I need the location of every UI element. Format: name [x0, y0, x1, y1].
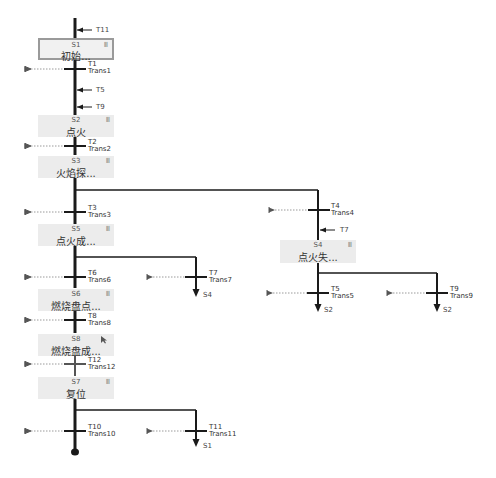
- jump-target-s4: S4: [203, 291, 212, 299]
- step-s2[interactable]: S2 III 点火: [38, 115, 114, 137]
- step-name: 燃烧盘成...: [38, 343, 114, 358]
- step-s5[interactable]: S5 III 点火成...: [38, 224, 114, 246]
- jump-target-s2-a: S2: [324, 306, 333, 314]
- transition-t1[interactable]: T1Trans1: [88, 61, 111, 75]
- step-id: S4: [280, 241, 356, 249]
- transition-name: Trans11: [209, 431, 236, 438]
- step-name: 点火成...: [38, 233, 114, 248]
- transition-t2[interactable]: T2Trans2: [88, 139, 111, 153]
- step-s1[interactable]: S1 III 初始...: [38, 38, 114, 60]
- transition-t10[interactable]: T10Trans10: [88, 424, 115, 438]
- step-name: 点火: [38, 124, 114, 139]
- transition-t5[interactable]: T5Trans5: [331, 286, 354, 300]
- transition-name: Trans3: [88, 212, 111, 219]
- step-id: S2: [38, 116, 114, 124]
- step-action-icon[interactable]: III: [106, 378, 109, 386]
- step-s8[interactable]: S8 燃烧盘成...: [38, 334, 114, 356]
- transition-name: Trans12: [88, 364, 115, 371]
- transition-name: Trans8: [88, 320, 111, 327]
- transition-t3[interactable]: T3Trans3: [88, 205, 111, 219]
- jump-target-s2-b: S2: [443, 306, 452, 314]
- step-id: S5: [38, 225, 114, 233]
- transition-t4[interactable]: T4Trans4: [331, 203, 354, 217]
- step-id: S3: [38, 157, 114, 165]
- step-s7[interactable]: S7 III 复位: [38, 377, 114, 399]
- transition-name: Trans9: [450, 293, 473, 300]
- transition-name: Trans4: [331, 210, 354, 217]
- transition-t9[interactable]: T9Trans9: [450, 286, 473, 300]
- step-action-icon[interactable]: III: [106, 225, 109, 233]
- jump-label-t11: T11: [96, 26, 109, 34]
- step-s4[interactable]: S4 III 点火失...: [280, 240, 356, 263]
- transition-name: Trans10: [88, 431, 115, 438]
- step-id: S6: [38, 290, 114, 298]
- step-name: 点火失...: [280, 249, 356, 264]
- transition-t11[interactable]: T11Trans11: [209, 424, 236, 438]
- step-s3[interactable]: S3 III 火焰探...: [38, 156, 114, 178]
- transition-name: Trans1: [88, 68, 111, 75]
- jump-label-t5: T5: [96, 86, 105, 94]
- step-action-icon[interactable]: III: [106, 290, 109, 298]
- transition-name: Trans6: [88, 277, 111, 284]
- step-id: S7: [38, 378, 114, 386]
- transition-name: Trans7: [209, 277, 232, 284]
- step-name: 火焰探...: [38, 165, 114, 180]
- transition-name: Trans2: [88, 146, 111, 153]
- step-action-icon[interactable]: III: [106, 116, 109, 124]
- step-name: 复位: [38, 386, 114, 401]
- jump-label-t7: T7: [340, 226, 349, 234]
- jump-label-t9: T9: [96, 103, 105, 111]
- transition-t12[interactable]: T12Trans12: [88, 357, 115, 371]
- transition-t6[interactable]: T6Trans6: [88, 270, 111, 284]
- step-action-icon[interactable]: III: [348, 241, 351, 249]
- step-action-icon[interactable]: III: [106, 157, 109, 165]
- transition-t7[interactable]: T7Trans7: [209, 270, 232, 284]
- step-name: 燃烧盘点...: [38, 298, 114, 313]
- step-s6[interactable]: S6 III 燃烧盘点...: [38, 289, 114, 311]
- transition-t8[interactable]: T8Trans8: [88, 313, 111, 327]
- jump-target-s1: S1: [203, 442, 212, 450]
- transition-name: Trans5: [331, 293, 354, 300]
